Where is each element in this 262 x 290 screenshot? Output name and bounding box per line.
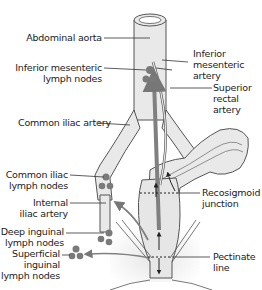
label-common-iliac-artery: Common iliac artery [18, 117, 111, 128]
label-superficial-inguinal-lymph-nodes: Superficial inguinal lymph nodes [0, 248, 60, 281]
internal-iliac-artery [100, 195, 110, 232]
label-inferior-mesenteric-lymph-nodes: Inferior mesenteric lymph nodes [0, 62, 102, 84]
label-pectinate-line: Pectinate line [213, 251, 255, 273]
label-common-iliac-lymph-nodes: Common iliac lymph nodes [0, 169, 68, 191]
lymphatic-drainage-diagram: Abdominal aorta Inferior mesenteric arte… [0, 0, 262, 290]
label-deep-inguinal-lymph-nodes: Deep inguinal lymph nodes [0, 226, 64, 248]
label-inferior-mesenteric-artery: Inferior mesenteric artery [193, 48, 244, 81]
label-abdominal-aorta: Abdominal aorta [14, 32, 102, 43]
label-internal-iliac-artery: Internal iliac artery [0, 197, 68, 219]
label-recosigmoid-junction: Recosigmoid junction [202, 187, 260, 209]
label-superior-rectal-artery: Superior rectal artery [213, 82, 252, 115]
